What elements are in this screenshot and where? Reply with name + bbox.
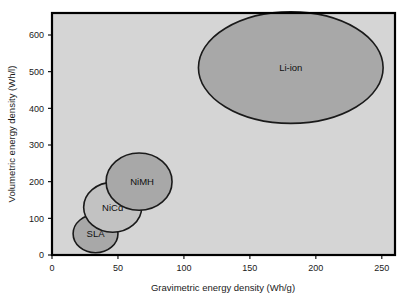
x-axis-ticks: 050100150200250 — [49, 255, 389, 273]
x-tick-label: 250 — [374, 263, 389, 273]
x-tick-label: 200 — [308, 263, 323, 273]
x-tick-label: 50 — [113, 263, 123, 273]
y-axis-title: Volumetric energy density (Wh/l) — [6, 66, 17, 203]
x-axis-title: Gravimetric energy density (Wh/g) — [151, 282, 295, 293]
x-tick-label: 150 — [242, 263, 257, 273]
bubble-label: Li-ion — [279, 62, 302, 73]
y-tick-label: 500 — [29, 67, 44, 77]
battery-energy-density-chart: SLANiCdNiMHLi-ion 050100150200250 010020… — [0, 0, 407, 303]
y-tick-label: 300 — [29, 140, 44, 150]
bubble-label: NiMH — [130, 176, 154, 187]
x-tick-label: 0 — [49, 263, 54, 273]
x-tick-label: 100 — [176, 263, 191, 273]
y-tick-label: 400 — [29, 104, 44, 114]
chart-canvas: SLANiCdNiMHLi-ion 050100150200250 010020… — [0, 0, 407, 303]
y-axis-ticks: 0100200300400500600 — [29, 30, 52, 260]
bubble-li-ion: Li-ion — [198, 12, 383, 123]
y-tick-label: 0 — [39, 250, 44, 260]
bubble-nimh: NiMH — [106, 153, 172, 210]
y-tick-label: 200 — [29, 177, 44, 187]
y-tick-label: 600 — [29, 30, 44, 40]
y-tick-label: 100 — [29, 214, 44, 224]
